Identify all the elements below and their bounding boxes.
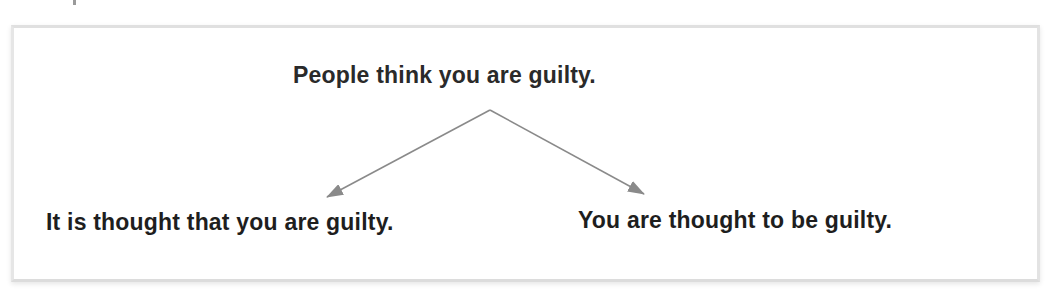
passive-sentence-it-is-thought: It is thought that you are guilty. [46,209,394,236]
active-sentence: People think you are guilty. [293,62,596,89]
passive-sentence-you-are-thought: You are thought to be guilty. [578,207,892,234]
cropped-text-fragment [73,0,76,5]
